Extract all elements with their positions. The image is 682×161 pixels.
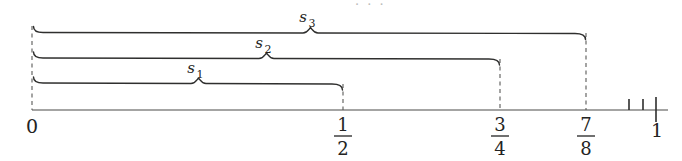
- brace-label-s2-base: s: [255, 34, 263, 52]
- brace-label-s2-subscript: 2: [265, 43, 272, 56]
- axis-label-one: 1: [651, 119, 663, 141]
- brace-label-s3: s 3: [299, 8, 315, 30]
- axis-label-three-quarters: 3 4: [491, 114, 509, 159]
- brace-label-s1: s 1: [187, 59, 203, 81]
- axis-label-one-half-numerator: 1: [337, 114, 348, 135]
- axis-label-three-quarters-denominator: 4: [494, 138, 505, 159]
- number-line-partial-sums-figure: · · · s 3 s 2 s 1: [0, 0, 682, 161]
- brace-label-s2: s 2: [255, 34, 271, 56]
- axis-label-seven-eighths-denominator: 8: [580, 138, 591, 159]
- axis-label-zero: 0: [26, 115, 38, 137]
- brace-label-s3-subscript: 3: [309, 17, 316, 30]
- brace-s1-path: [34, 77, 343, 90]
- axis-label-seven-eighths: 7 8: [577, 114, 595, 159]
- axis-label-one-half-denominator: 2: [337, 138, 348, 159]
- axis-label-three-quarters-numerator: 3: [494, 114, 505, 135]
- figure-canvas: · · · s 3 s 2 s 1: [0, 0, 682, 161]
- ellipsis-mark: · · ·: [355, 0, 386, 12]
- brace-label-s1-base: s: [187, 59, 195, 77]
- brace-label-s3-base: s: [299, 8, 307, 26]
- axis-label-one-half: 1 2: [334, 114, 352, 159]
- axis-label-seven-eighths-numerator: 7: [580, 114, 591, 135]
- brace-label-s1-subscript: 1: [197, 68, 204, 81]
